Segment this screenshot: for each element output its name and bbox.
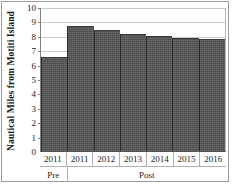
y-tick-label: 10 [27,4,36,13]
bar[interactable] [172,38,198,151]
y-tick-label: 9 [32,18,37,27]
y-tick-label: 0 [32,148,37,157]
figure-caption [2,184,230,195]
y-tick-label: 2 [32,119,37,128]
x-tick-label: 2014 [146,152,173,166]
x-axis-year-labels: 2011201120122013201420152016 [40,152,226,167]
bar[interactable] [146,36,172,151]
x-tick-label: 2011 [66,152,93,166]
y-axis-title-text: Nautical Miles from Motiti Island [6,11,16,151]
y-tick-label: 6 [32,61,37,70]
x-tick-label: 2015 [173,152,200,166]
y-tick-label: 4 [32,90,37,99]
figure-container: Nautical Miles from Motiti Island 109876… [0,0,232,195]
bar[interactable] [94,30,120,151]
bar-series [41,8,225,151]
x-group-label: Pre [40,167,67,182]
y-axis-title: Nautical Miles from Motiti Island [3,8,19,154]
x-tick-label: 2012 [92,152,119,166]
x-axis-group-labels: PrePost [40,167,226,182]
x-tick-label: 2011 [40,152,66,166]
plot-area [40,8,226,152]
bar[interactable] [120,34,146,151]
x-tick-label: 2016 [199,152,226,166]
y-tick-label: 5 [32,76,37,85]
x-group-label: Post [67,167,226,182]
x-tick-label: 2013 [119,152,146,166]
bar[interactable] [67,26,93,151]
y-tick-label: 3 [32,104,37,113]
bar[interactable] [199,39,225,151]
y-tick-label: 8 [32,32,37,41]
bar[interactable] [41,57,67,151]
y-tick-label: 7 [32,47,37,56]
y-tick-label: 1 [32,133,37,142]
y-axis-tick-labels: 109876543210 [19,3,38,158]
x-axis: 2011201120122013201420152016 PrePost [40,152,226,182]
